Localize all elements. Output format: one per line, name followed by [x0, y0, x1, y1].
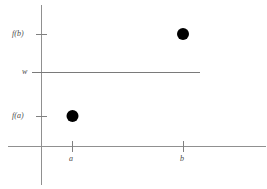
x-tick-label-b: b [180, 155, 184, 163]
data-point-a [67, 110, 79, 122]
y-tick-label-f-of-b: f(b) [12, 30, 24, 38]
y-tick-label-f-of-a: f(a) [12, 112, 24, 120]
y-tick-label-w: w [22, 68, 27, 76]
x-tick-label-a: a [69, 155, 73, 163]
function-graph-figure: f(b) w f(a) a b [0, 0, 267, 189]
graph-canvas [0, 0, 267, 189]
data-point-b [177, 28, 189, 40]
